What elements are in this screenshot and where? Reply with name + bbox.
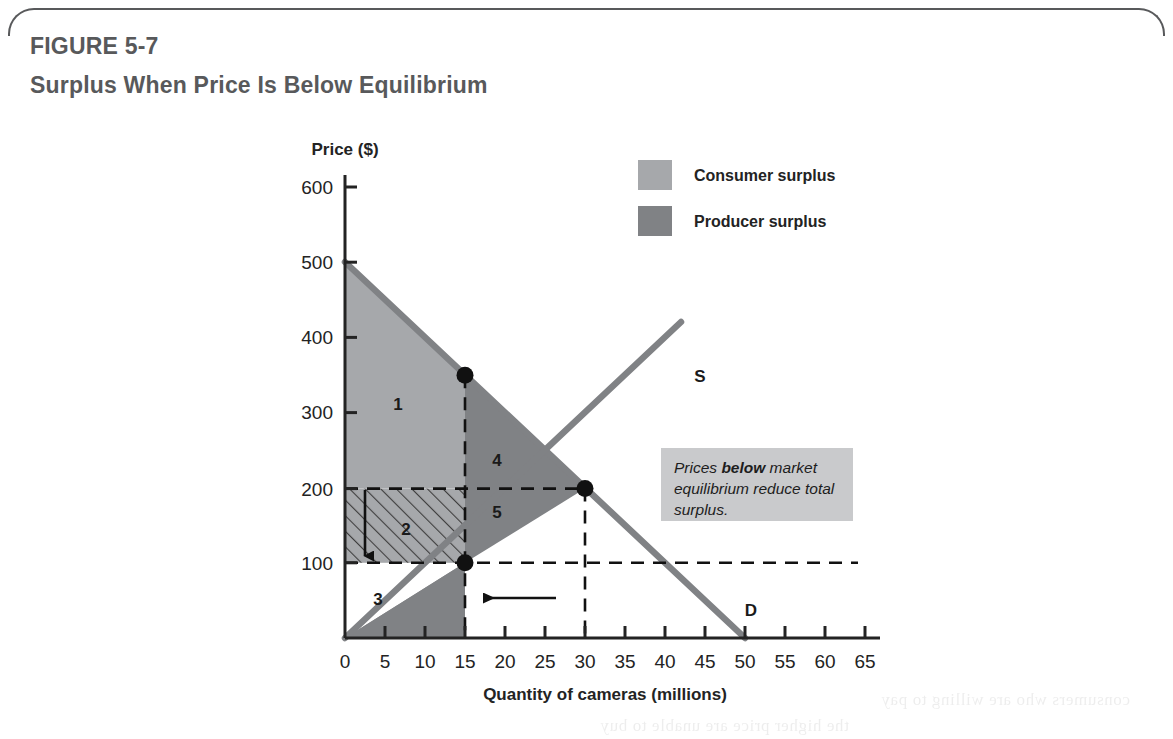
x-tick-label: 50 bbox=[734, 651, 755, 672]
x-tick-label: 15 bbox=[454, 651, 475, 672]
marker-demand-at-15 bbox=[457, 367, 474, 384]
x-tick-label: 55 bbox=[774, 651, 795, 672]
x-tick-label: 65 bbox=[854, 651, 875, 672]
region-producer-surplus bbox=[345, 563, 465, 638]
region-label-2: 2 bbox=[401, 520, 410, 539]
x-tick-label: 0 bbox=[340, 651, 351, 672]
region-label-3: 3 bbox=[373, 590, 382, 609]
x-tick-label: 30 bbox=[574, 651, 595, 672]
x-tick-label: 20 bbox=[494, 651, 515, 672]
y-tick-label: 100 bbox=[301, 553, 333, 574]
x-tick-label: 5 bbox=[380, 651, 391, 672]
legend-label-consumer-surplus: Consumer surplus bbox=[694, 167, 835, 184]
x-tick-label: 10 bbox=[414, 651, 435, 672]
x-tick-label: 60 bbox=[814, 651, 835, 672]
y-tick-label: 300 bbox=[301, 402, 333, 423]
supply-curve-label: S bbox=[694, 367, 705, 386]
region-label-4: 4 bbox=[492, 451, 502, 470]
legend-label-producer-surplus: Producer surplus bbox=[694, 213, 827, 230]
y-tick-label: 600 bbox=[301, 177, 333, 198]
legend-swatch-consumer-surplus bbox=[638, 160, 672, 190]
y-tick-label: 400 bbox=[301, 327, 333, 348]
legend: Consumer surplus Producer surplus bbox=[638, 160, 835, 236]
x-axis-title: Quantity of cameras (millions) bbox=[483, 685, 727, 704]
callout-text-emphasis: below bbox=[721, 459, 765, 476]
callout-text-before: Prices bbox=[674, 459, 721, 476]
x-tick-label: 40 bbox=[654, 651, 675, 672]
region-label-1: 1 bbox=[393, 395, 402, 414]
y-axis-title: Price ($) bbox=[311, 140, 378, 159]
legend-swatch-producer-surplus bbox=[638, 206, 672, 236]
x-tick-label: 45 bbox=[694, 651, 715, 672]
x-tick-label: 35 bbox=[614, 651, 635, 672]
demand-curve-label: D bbox=[745, 601, 757, 620]
x-tick-label: 25 bbox=[534, 651, 555, 672]
region-label-5: 5 bbox=[492, 503, 501, 522]
marker-supply-at-ceiling bbox=[457, 554, 474, 571]
y-tick-label: 500 bbox=[301, 252, 333, 273]
marker-equilibrium bbox=[577, 480, 594, 497]
y-tick-label: 200 bbox=[301, 479, 333, 500]
callout-note: Prices below market equilibrium reduce t… bbox=[661, 448, 853, 521]
